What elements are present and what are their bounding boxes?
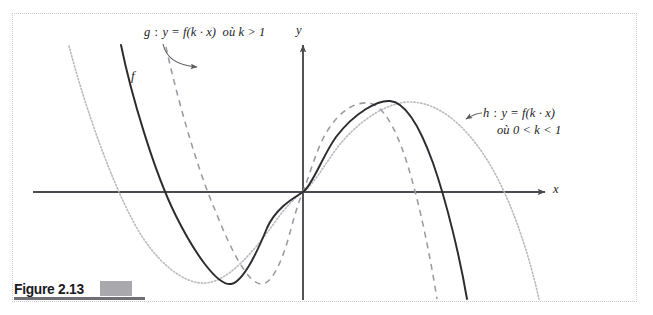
curve-label-h-condition: où 0 < k < 1 bbox=[483, 122, 561, 139]
y-axis-label: y bbox=[296, 23, 302, 38]
curve-label-g-equation: y = f(k · x) bbox=[162, 25, 216, 39]
curve-label-f-text: f bbox=[131, 68, 135, 83]
graph-canvas bbox=[0, 0, 653, 315]
x-axis-label-text: x bbox=[553, 182, 559, 196]
caption-rule bbox=[14, 297, 145, 300]
compressed-curve-g bbox=[166, 47, 437, 299]
curve-label-g: g : y = f(k · x) où k > 1 bbox=[144, 25, 265, 40]
curve-label-g-colon: : bbox=[150, 25, 162, 39]
curve-label-h: h : y = f(k · x) où 0 < k < 1 bbox=[483, 105, 561, 139]
stretched-curve-h bbox=[69, 46, 539, 299]
curve-label-h-equation: y = f(k · x) bbox=[501, 106, 555, 120]
base-curve-f bbox=[121, 45, 467, 299]
pointer-arrow-to-h-curve bbox=[466, 113, 482, 119]
x-axis-label: x bbox=[553, 182, 559, 197]
figure-caption-text: Figure 2.13 bbox=[14, 280, 84, 297]
curve-label-g-condition: où k > 1 bbox=[223, 25, 266, 39]
axis-group bbox=[33, 45, 545, 300]
pointer-arrow-to-g-curve bbox=[163, 44, 197, 67]
curve-label-f: f bbox=[131, 68, 135, 84]
y-axis-label-text: y bbox=[296, 23, 302, 37]
curve-label-h-colon: : bbox=[489, 106, 501, 120]
caption-swatch bbox=[100, 281, 132, 296]
figure-caption-block: Figure 2.13 bbox=[14, 280, 148, 302]
figure-container: f g : y = f(k · x) où k > 1 h : y = f(k … bbox=[0, 0, 653, 315]
